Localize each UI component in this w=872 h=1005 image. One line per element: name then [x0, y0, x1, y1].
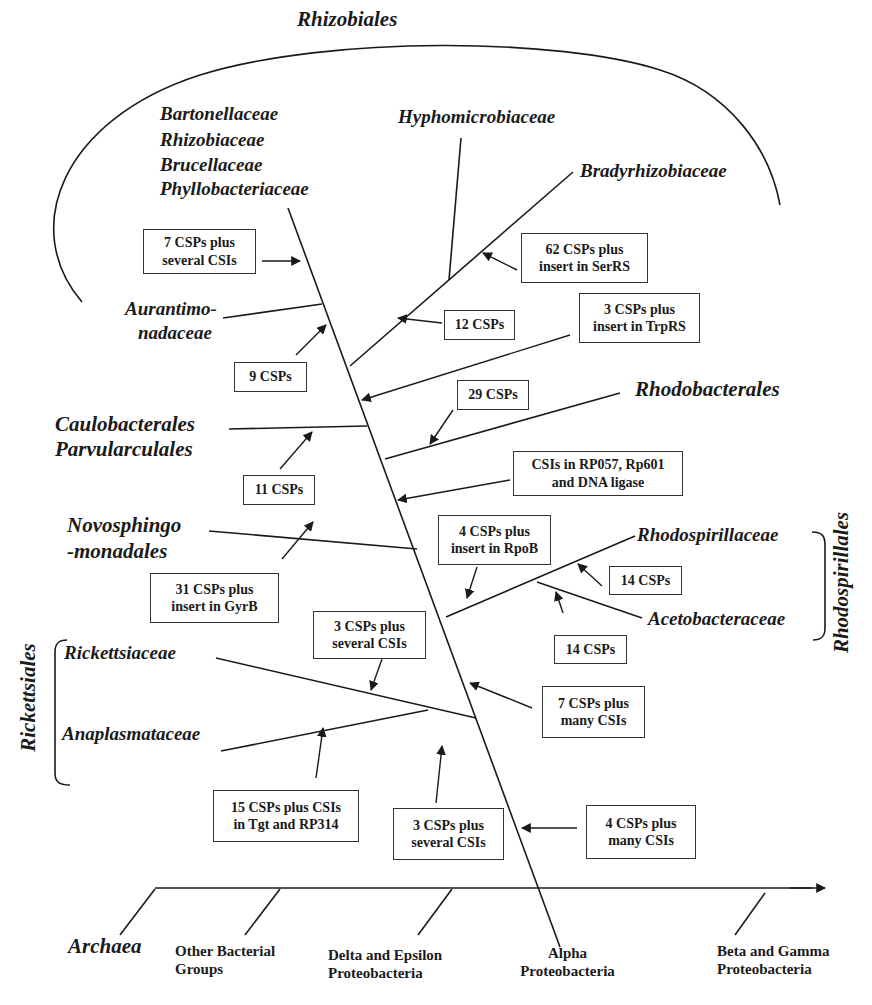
- taxon-bartonellaceae: Bartonellaceae: [160, 103, 278, 124]
- taxon-aurantimonadaceae-line2: nadaceae: [138, 322, 212, 343]
- axis-label-delta-epsilon: Delta and EpsilonProteobacteria: [328, 946, 442, 982]
- taxon-novosphingomonadales-line1: Novosphingo: [67, 514, 181, 538]
- taxon-phyllobacteriaceae: Phyllobacteriaceae: [160, 178, 309, 199]
- taxon-brucellaceae: Brucellaceae: [160, 154, 262, 175]
- annotation-a2: 62 CSPs plusinsert in SerRS: [521, 233, 648, 283]
- axis-label-beta-gamma: Beta and GammaProteobacteria: [717, 942, 830, 978]
- arrow-a6: [430, 410, 453, 444]
- annotation-a14: 7 CSPs plusmany CSIs: [542, 686, 645, 738]
- arrow-a10: [578, 564, 602, 586]
- annotation-a17: 4 CSPs plusmany CSIs: [586, 805, 696, 859]
- arrow-a16: [436, 746, 442, 803]
- annotation-a7: 11 CSPs: [243, 475, 315, 505]
- annotation-a15: 15 CSPs plus CSIsin Tgt and RP314: [213, 790, 359, 842]
- axis-label-alpha: AlphaProteobacteria: [505, 944, 630, 980]
- arrow-a8: [398, 480, 510, 500]
- annotation-a16: 3 CSPs plusseveral CSIs: [393, 808, 504, 860]
- taxon-hyphomicrobiaceae: Hyphomicrobiaceae: [398, 106, 555, 127]
- phylogeny-diagram: Rhizobiales Bartonellaceae Rhizobiaceae …: [0, 0, 872, 1005]
- arrow-a14: [470, 683, 532, 708]
- annotation-a6: 29 CSPs: [457, 380, 529, 410]
- taxon-parvularculales: Parvularculales: [55, 438, 193, 462]
- annotation-a5: 9 CSPs: [234, 362, 307, 392]
- taxon-novosphingomonadales-line2: -monadales: [67, 540, 167, 564]
- axis-label-other-bacterial-groups: Other BacterialGroups: [175, 942, 275, 978]
- arrow-a9: [467, 567, 477, 598]
- annotation-a10: 14 CSPs: [609, 566, 682, 595]
- annotation-a12: 14 CSPs: [554, 635, 627, 664]
- taxon-anaplasmataceae: Anaplasmataceae: [62, 723, 200, 744]
- annotation-a1: 7 CSPs plusseveral CSIs: [143, 229, 256, 274]
- arrow-a13: [371, 659, 382, 690]
- arrow-a12: [556, 592, 563, 613]
- clade-rickettsiales: Rickettsiales: [16, 623, 41, 773]
- arrow-a3: [398, 318, 442, 323]
- annotation-a8: CSIs in RP057, Rp601and DNA ligase: [513, 451, 683, 496]
- annotation-a3: 12 CSPs: [444, 310, 515, 340]
- axis-label-archaea: Archaea: [68, 935, 142, 959]
- arrow-a7: [280, 432, 312, 469]
- taxon-aurantimonadaceae-line1: Aurantimo-: [125, 298, 217, 319]
- arrow-a11: [282, 522, 313, 559]
- clade-rhodospirillales: Rhodospirillales: [829, 508, 854, 658]
- taxon-acetobacteraceae: Acetobacteraceae: [648, 608, 785, 629]
- annotation-a9: 4 CSPs plusinsert in RpoB: [438, 515, 551, 565]
- clade-rhizobiales: Rhizobiales: [297, 8, 397, 32]
- taxon-rhodospirillaceae: Rhodospirillaceae: [637, 524, 778, 545]
- arrow-a5: [296, 325, 326, 355]
- arrow-a2: [483, 253, 517, 270]
- arrow-a15: [316, 728, 323, 778]
- annotation-a11: 31 CSPs plusinsert in GyrB: [150, 573, 279, 623]
- taxon-rhizobiaceae: Rhizobiaceae: [160, 129, 265, 150]
- annotation-a4: 3 CSPs plusinsert in TrpRS: [579, 293, 700, 343]
- taxon-rhodobacterales: Rhodobacterales: [635, 378, 780, 402]
- taxon-rickettsiaceae: Rickettsiaceae: [64, 642, 176, 663]
- taxon-caulobacterales: Caulobacterales: [55, 413, 195, 437]
- annotation-a13: 3 CSPs plusseveral CSIs: [313, 611, 426, 659]
- taxon-bradyrhizobiaceae: Bradyrhizobiaceae: [580, 160, 727, 181]
